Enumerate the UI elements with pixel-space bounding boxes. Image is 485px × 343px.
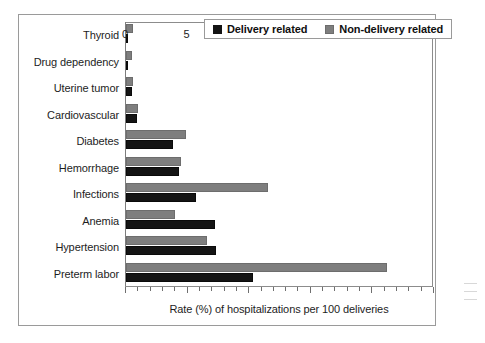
bar-non-delivery-related — [126, 104, 138, 113]
x-axis-minor-tick — [359, 287, 360, 291]
bar-row: Hemorrhage — [125, 155, 433, 182]
bar-non-delivery-related — [126, 77, 133, 86]
x-axis-minor-tick — [236, 287, 237, 291]
x-axis-minor-tick — [273, 287, 274, 291]
x-axis-major-tick — [371, 287, 372, 293]
x-axis-major-tick — [433, 287, 434, 293]
category-label: Preterm labor — [54, 268, 119, 280]
x-axis-minor-tick — [396, 287, 397, 291]
x-axis-minor-tick — [224, 287, 225, 291]
category-label: Cardiovascular — [47, 109, 119, 121]
bar-non-delivery-related — [126, 51, 132, 60]
x-axis-minor-tick — [174, 287, 175, 291]
legend-label: Delivery related — [227, 23, 307, 35]
x-axis-minor-tick — [137, 287, 138, 291]
bar-non-delivery-related — [126, 183, 268, 192]
bar-delivery-related — [126, 61, 128, 70]
bar-delivery-related — [126, 114, 137, 123]
bar-delivery-related — [126, 167, 179, 176]
category-label: Hemorrhage — [59, 162, 119, 174]
category-label: Diabetes — [76, 135, 119, 147]
x-axis-tick-label: 0 — [122, 28, 128, 40]
bar-non-delivery-related — [126, 210, 175, 219]
figure-panel: ThyroidDrug dependencyUterine tumorCardi… — [0, 0, 485, 343]
chart-legend: Delivery relatedNon-delivery related — [204, 19, 452, 39]
x-axis-minor-tick — [297, 287, 298, 291]
bar-delivery-related — [126, 140, 173, 149]
bar-row: Hypertension — [125, 234, 433, 261]
x-axis-major-tick — [187, 287, 188, 293]
plot-area: ThyroidDrug dependencyUterine tumorCardi… — [125, 22, 433, 287]
category-label: Infections — [73, 188, 119, 200]
x-axis-major-tick — [248, 287, 249, 293]
legend-entry: Delivery related — [213, 23, 307, 35]
x-axis-minor-tick — [261, 287, 262, 291]
scan-edge-artifact — [462, 276, 478, 316]
bar-delivery-related — [126, 246, 216, 255]
bar-row: Uterine tumor — [125, 75, 433, 102]
bar-delivery-related — [126, 193, 196, 202]
legend-label: Non-delivery related — [339, 23, 443, 35]
bar-row: Drug dependency — [125, 49, 433, 76]
bar-non-delivery-related — [126, 263, 387, 272]
x-axis-minor-tick — [334, 287, 335, 291]
bar-delivery-related — [126, 273, 253, 282]
bar-row: Infections — [125, 181, 433, 208]
category-label: Thyroid — [83, 29, 119, 41]
x-axis-minor-tick — [347, 287, 348, 291]
x-axis-minor-tick — [421, 287, 422, 291]
x-axis-minor-tick — [408, 287, 409, 291]
x-axis-minor-tick — [322, 287, 323, 291]
bar-non-delivery-related — [126, 157, 181, 166]
bar-row: Preterm labor — [125, 261, 433, 288]
x-axis-minor-tick — [162, 287, 163, 291]
x-axis-minor-tick — [211, 287, 212, 291]
bar-row: Diabetes — [125, 128, 433, 155]
category-label: Drug dependency — [34, 56, 119, 68]
x-axis-major-tick — [310, 287, 311, 293]
legend-swatch-dark — [213, 25, 222, 34]
legend-swatch-gray — [325, 25, 334, 34]
x-axis-minor-tick — [150, 287, 151, 291]
category-label: Hypertension — [55, 241, 119, 253]
bar-row: Anemia — [125, 208, 433, 235]
bar-non-delivery-related — [126, 130, 186, 139]
x-axis-major-tick — [125, 287, 126, 293]
x-axis-minor-tick — [285, 287, 286, 291]
bar-delivery-related — [126, 87, 132, 96]
bar-delivery-related — [126, 220, 215, 229]
x-axis-minor-tick — [199, 287, 200, 291]
x-axis-tick-label: 5 — [184, 28, 190, 40]
x-axis-title: Rate (%) of hospitalizations per 100 del… — [125, 303, 433, 315]
x-axis-minor-tick — [384, 287, 385, 291]
bar-non-delivery-related — [126, 236, 207, 245]
legend-entry: Non-delivery related — [325, 23, 443, 35]
bar-row: Cardiovascular — [125, 102, 433, 129]
category-label: Uterine tumor — [54, 82, 119, 94]
category-label: Anemia — [82, 215, 119, 227]
